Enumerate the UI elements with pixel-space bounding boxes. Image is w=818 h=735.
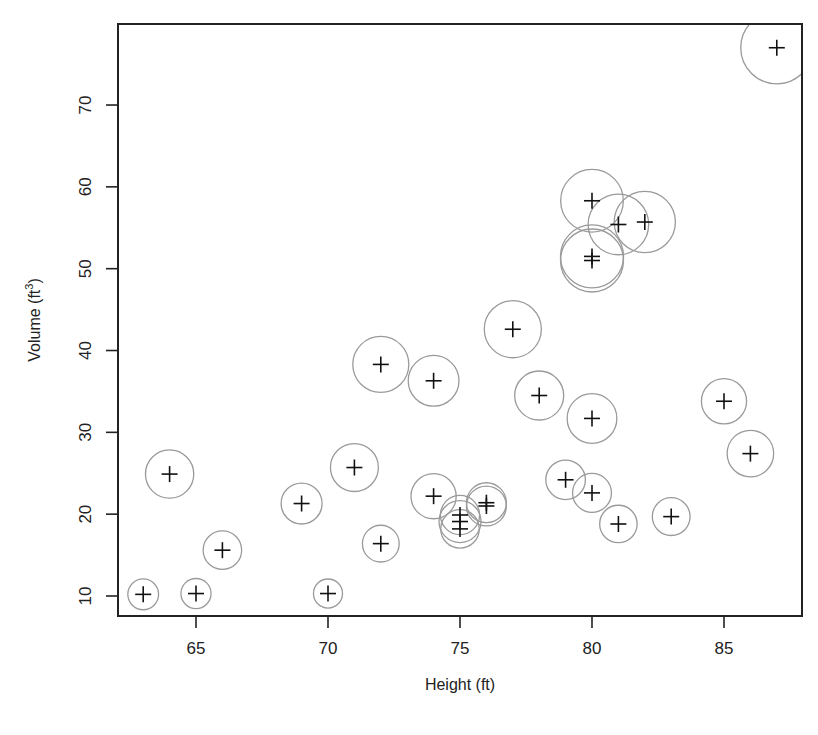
data-point-plus-icon	[716, 393, 732, 409]
data-point-plus-icon	[637, 214, 653, 230]
data-points	[135, 40, 785, 603]
y-tick-label: 60	[76, 177, 95, 196]
data-point-plus-icon	[426, 488, 442, 504]
y-tick-label: 10	[76, 587, 95, 606]
data-point-plus-icon	[663, 509, 679, 525]
data-point-plus-icon	[742, 446, 758, 462]
x-tick-label: 70	[319, 639, 338, 658]
x-tick-label: 80	[583, 639, 602, 658]
data-point-plus-icon	[769, 40, 785, 56]
data-point-plus-icon	[558, 472, 574, 488]
data-point-plus-icon	[531, 388, 547, 404]
data-point-plus-icon	[346, 460, 362, 476]
data-point-plus-icon	[452, 514, 468, 530]
girth-bubbles	[128, 12, 813, 610]
x-axis-title: Height (ft)	[425, 676, 495, 693]
data-point-plus-icon	[478, 495, 494, 511]
y-tick-label: 40	[76, 341, 95, 360]
data-point-plus-icon	[505, 321, 521, 337]
data-point-plus-icon	[373, 536, 389, 552]
data-point-plus-icon	[162, 466, 178, 482]
y-tick-label: 30	[76, 423, 95, 442]
data-point-plus-icon	[584, 193, 600, 209]
data-point-plus-icon	[584, 410, 600, 426]
x-tick-label: 75	[451, 639, 470, 658]
data-point-plus-icon	[584, 485, 600, 501]
y-tick-label: 70	[76, 96, 95, 115]
data-point-plus-icon	[426, 373, 442, 389]
x-axis: 6570758085	[187, 616, 734, 658]
data-point-plus-icon	[320, 586, 336, 602]
y-tick-label: 20	[76, 505, 95, 524]
x-tick-label: 65	[187, 639, 206, 658]
data-point-plus-icon	[610, 516, 626, 532]
data-point-plus-icon	[294, 496, 310, 512]
x-tick-label: 85	[715, 639, 734, 658]
y-axis-title: Volume (ft3)	[23, 278, 43, 361]
data-point-plus-icon	[188, 586, 204, 602]
y-axis: 10203040506070	[76, 96, 118, 606]
data-point-plus-icon	[373, 356, 389, 372]
data-point-plus-icon	[610, 216, 626, 232]
scatter-chart: 6570758085 10203040506070 Height (ft) Vo…	[0, 0, 818, 735]
data-point-plus-icon	[135, 586, 151, 602]
data-point-plus-icon	[214, 542, 230, 558]
data-point-plus-icon	[584, 252, 600, 268]
y-tick-label: 50	[76, 259, 95, 278]
